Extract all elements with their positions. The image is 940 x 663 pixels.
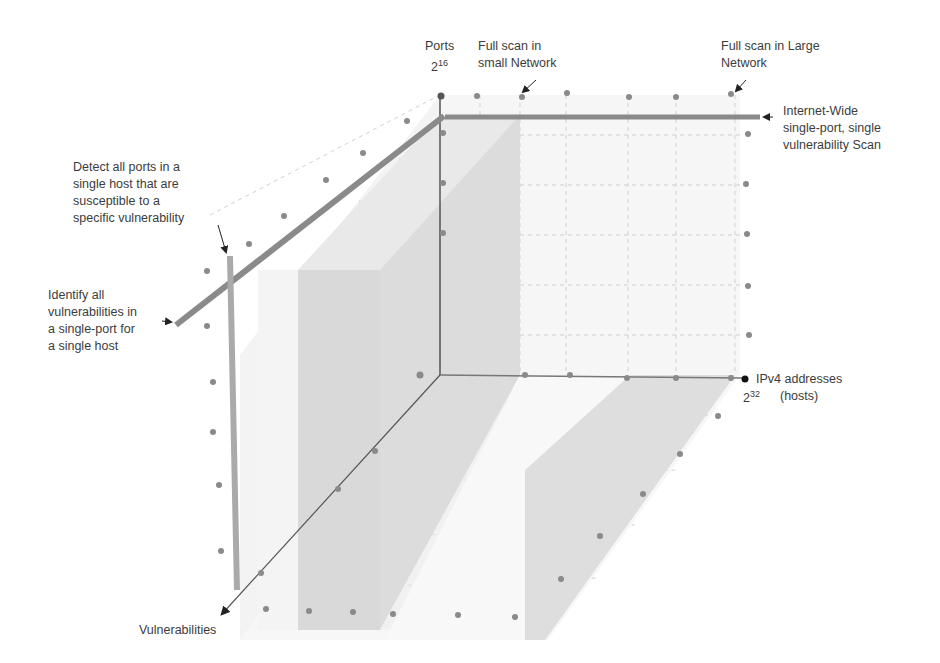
single-host-ports-bar [230,256,237,590]
annotation-internet-wide: Internet-Wide single-port, single vulner… [783,103,881,154]
ports-axis-label: Ports 216 [425,38,454,76]
annotation-line: Full scan in Large [721,38,820,55]
annotation-identify-vulns: Identify all vulnerabilities in a single… [48,287,137,355]
annotation-line: Network [721,55,820,72]
annotation-line: Full scan in [478,38,557,55]
annotation-line: single host that are [73,176,184,193]
annotation-line: specific vulnerability [73,210,184,227]
hosts-exponent: 32 [750,389,760,399]
annotation-line: vulnerabilities in [48,304,137,321]
annotation-line: a single-port for [48,321,137,338]
ports-axis-title: Ports [425,38,454,55]
annotation-line: a single host [48,338,137,355]
hosts-axis-label: IPv4 addresses (hosts) [756,371,842,405]
annotation-line: Detect all ports in a [73,159,184,176]
ports-exponent: 16 [438,58,448,68]
hosts-base: 2 [743,391,750,405]
annotation-detect-ports: Detect all ports in a single host that a… [73,159,184,227]
annotation-line: single-port, single [783,120,881,137]
annotation-full-scan-small: Full scan in small Network [478,38,557,72]
hosts-axis-title: IPv4 addresses [756,371,842,388]
annotation-line: small Network [478,55,557,72]
annotation-full-scan-large: Full scan in Large Network [721,38,820,72]
ports-axis-max: 216 [425,55,454,76]
annotation-line: vulnerability Scan [783,137,881,154]
annotation-line: susceptible to a [73,193,184,210]
scan-space-diagram [0,0,940,663]
annotation-line: Identify all [48,287,137,304]
hosts-axis-max: 232 [743,386,760,407]
hosts-axis-subtitle: (hosts) [756,388,842,405]
annotation-line: Internet-Wide [783,103,881,120]
vulnerabilities-axis-label: Vulnerabilities [139,622,216,639]
